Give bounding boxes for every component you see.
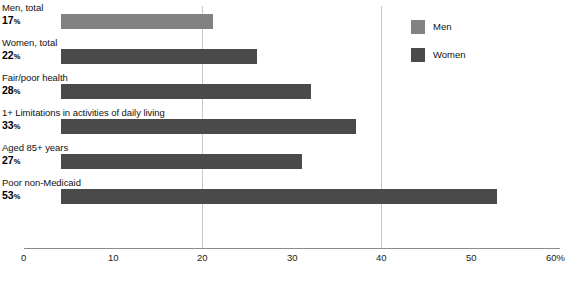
x-tick-10: 10 [108,252,119,263]
bar-value-number: 28 [2,84,14,96]
percent-sign: % [14,17,21,26]
bar-women-total [61,49,257,64]
bar-value-label: 17% [2,14,20,28]
bar-poor-non-medicaid [61,189,497,204]
legend-label-men: Men [433,21,451,32]
bar-value-number: 53 [2,189,14,201]
bar-category-label: Men, total [2,2,43,13]
percent-sign: % [14,52,21,61]
x-tick-60: 60% [546,252,565,263]
bar-value-label: 22% [2,49,20,63]
percent-sign: % [14,192,21,201]
bar-row: Fair/poor health 28% [0,72,582,107]
bar-value-label: 53% [2,189,20,203]
bar-category-label: Fair/poor health [2,72,68,83]
bar-category-label: Women, total [2,37,57,48]
bar-row: Men, total 17% [0,2,582,37]
percent-sign: % [14,157,21,166]
bar-men-total [61,14,213,29]
bar-category-label: 1+ Limitations in activities of daily li… [2,107,165,118]
bar-category-label: Aged 85+ years [2,142,68,153]
bar-value-number: 27 [2,154,14,166]
bar-row: Aged 85+ years 27% [0,142,582,177]
x-tick-20: 20 [197,252,208,263]
bar-value-number: 33 [2,119,14,131]
bar-limitations-adl [61,119,356,134]
legend-swatch-women-icon [411,48,425,62]
percent-sign: % [14,122,21,131]
x-tick-30: 30 [287,252,298,263]
bar-value-number: 17 [2,14,14,26]
bar-row: Poor non-Medicaid 53% [0,177,582,212]
bar-value-number: 22 [2,49,14,61]
x-tick-40: 40 [376,252,387,263]
legend-swatch-men-icon [411,20,425,34]
bar-chart: Men, total 17% Women, total 22% Fair/poo… [0,0,582,285]
x-tick-50: 50 [466,252,477,263]
bar-aged-85-plus [61,154,302,169]
percent-sign: % [14,87,21,96]
bar-value-label: 27% [2,154,20,168]
plot-area: Men, total 17% Women, total 22% Fair/poo… [0,0,582,248]
bar-category-label: Poor non-Medicaid [2,177,81,188]
bar-row: 1+ Limitations in activities of daily li… [0,107,582,142]
bar-value-label: 28% [2,84,20,98]
x-axis-line [24,248,560,249]
legend-label-women: Women [433,49,466,60]
x-tick-0: 0 [21,252,26,263]
bar-fair-poor-health [61,84,311,99]
bar-value-label: 33% [2,119,20,133]
bar-row: Women, total 22% [0,37,582,72]
